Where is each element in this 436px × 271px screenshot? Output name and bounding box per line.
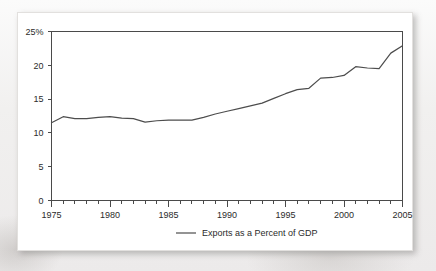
y-axis-tick-label: 10 xyxy=(33,128,43,138)
screenshot-root: 0510152025% 1975198019851990199520002005… xyxy=(0,0,436,271)
x-axis-tick-label: 1985 xyxy=(158,210,178,220)
x-axis-tick-label: 1980 xyxy=(100,210,120,220)
y-axis-tick-label: 15 xyxy=(33,94,43,104)
legend-label-exports-pct-gdp: Exports as a Percent of GDP xyxy=(202,228,318,238)
plot-frame xyxy=(52,32,403,201)
y-axis-tick-labels: 0510152025% xyxy=(25,27,43,206)
series-line-exports-pct-gdp xyxy=(52,46,403,123)
y-axis-tick-label: 25% xyxy=(25,27,43,37)
x-axis-major-ticks xyxy=(52,201,403,207)
x-axis-tick-label: 1995 xyxy=(275,210,295,220)
y-axis-tick-label: 0 xyxy=(38,196,43,206)
y-axis-tick-label: 5 xyxy=(38,162,43,172)
y-axis-tick-label: 20 xyxy=(33,61,43,71)
x-axis-tick-labels: 1975198019851990199520002005 xyxy=(41,210,412,220)
line-chart: 0510152025% 1975198019851990199520002005… xyxy=(0,0,436,271)
y-axis-ticks xyxy=(48,32,52,201)
x-axis-tick-label: 1990 xyxy=(217,210,237,220)
x-axis-tick-label: 2000 xyxy=(334,210,354,220)
x-axis-tick-label: 2005 xyxy=(392,210,412,220)
x-axis-tick-label: 1975 xyxy=(41,210,61,220)
